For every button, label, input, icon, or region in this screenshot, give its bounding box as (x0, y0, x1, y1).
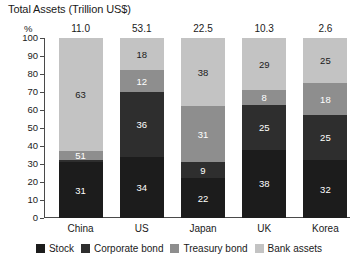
bar-segment-stock[interactable]: 31 (59, 162, 103, 218)
total-assets-value: 2.6 (303, 23, 347, 34)
y-tick-label: 80 (27, 69, 38, 79)
legend-label: Treasury bond (183, 243, 247, 254)
stacked-bar: 315163 (59, 38, 103, 218)
stacked-bar: 2293138 (181, 38, 225, 218)
total-assets-value: 10.3 (242, 23, 286, 34)
legend-item-stock[interactable]: Stock (36, 243, 74, 254)
bar-segment-treas[interactable]: 18 (303, 83, 347, 115)
bar-segment-treas[interactable]: 51 (59, 151, 103, 160)
bar-segment-corp[interactable]: 36 (120, 92, 164, 157)
y-tick-label: 20 (27, 177, 38, 187)
legend-swatch-icon (170, 244, 179, 253)
bar-segment-treas[interactable]: 12 (120, 70, 164, 92)
bar-segment-stock[interactable]: 34 (120, 157, 164, 218)
y-tick-mark (40, 128, 44, 129)
total-assets-value: 11.0 (59, 23, 103, 34)
y-tick-label: 60 (27, 105, 38, 115)
bar-column-us[interactable]: 53.134361218US (120, 38, 164, 218)
bar-segment-bank[interactable]: 29 (242, 38, 286, 90)
legend-label: Corporate bond (94, 243, 164, 254)
bar-column-uk[interactable]: 10.33825829UK (242, 38, 286, 218)
bar-segment-bank[interactable]: 18 (120, 38, 164, 70)
stacked-bar-chart: Total Assets (Trillion US$) % 1009080706… (0, 0, 358, 258)
y-tick-mark (40, 146, 44, 147)
y-tick-mark (40, 74, 44, 75)
y-tick-label: 0 (33, 213, 38, 223)
bar-column-china[interactable]: 11.0315163China (59, 38, 103, 218)
y-tick-mark (40, 218, 44, 219)
legend-label: Bank assets (268, 243, 322, 254)
y-tick-label: 100 (22, 33, 38, 43)
bar-segment-stock[interactable]: 22 (181, 178, 225, 218)
bar-segment-bank[interactable]: 63 (59, 38, 103, 151)
y-tick-mark (40, 92, 44, 93)
y-tick-mark (40, 110, 44, 111)
bar-segment-corp[interactable]: 9 (181, 162, 225, 178)
total-assets-value: 53.1 (120, 23, 164, 34)
x-tick-label: Japan (175, 223, 231, 234)
plot-area: 1009080706050403020100 11.0315163China53… (44, 38, 350, 218)
x-tick-label: UK (236, 223, 292, 234)
legend-swatch-icon (36, 244, 45, 253)
bar-column-korea[interactable]: 2.632251825Korea (303, 38, 347, 218)
bar-segment-corp[interactable]: 25 (242, 105, 286, 150)
legend-swatch-icon (81, 244, 90, 253)
legend-swatch-icon (255, 244, 264, 253)
x-tick-label: US (114, 223, 170, 234)
bar-segment-corp[interactable]: 25 (303, 115, 347, 160)
total-assets-value: 22.5 (181, 23, 225, 34)
y-tick-label: 50 (27, 123, 38, 133)
x-tick-label: China (53, 223, 109, 234)
bar-segment-bank[interactable]: 38 (181, 38, 225, 106)
y-tick-mark (40, 200, 44, 201)
stacked-bar: 3825829 (242, 38, 286, 218)
legend-item-bank[interactable]: Bank assets (255, 243, 322, 254)
x-tick-label: Korea (297, 223, 353, 234)
y-tick-label: 30 (27, 159, 38, 169)
chart-legend: StockCorporate bondTreasury bondBank ass… (0, 243, 358, 254)
y-tick-mark (40, 164, 44, 165)
chart-title: Total Assets (Trillion US$) (8, 3, 131, 15)
bar-segment-bank[interactable]: 25 (303, 38, 347, 83)
bar-segment-stock[interactable]: 32 (303, 160, 347, 218)
y-tick-mark (40, 182, 44, 183)
legend-label: Stock (49, 243, 74, 254)
legend-item-corp[interactable]: Corporate bond (81, 243, 164, 254)
y-tick-label: 40 (27, 141, 38, 151)
legend-item-treas[interactable]: Treasury bond (170, 243, 247, 254)
y-tick-mark (40, 38, 44, 39)
bar-segment-stock[interactable]: 38 (242, 150, 286, 218)
stacked-bar: 34361218 (120, 38, 164, 218)
y-tick-label: 70 (27, 87, 38, 97)
bar-segment-treas[interactable]: 8 (242, 90, 286, 104)
y-tick-label: 10 (27, 195, 38, 205)
stacked-bar: 32251825 (303, 38, 347, 218)
bar-column-japan[interactable]: 22.52293138Japan (181, 38, 225, 218)
y-tick-label: 90 (27, 51, 38, 61)
y-tick-mark (40, 56, 44, 57)
y-axis-line (44, 38, 45, 218)
bar-segment-treas[interactable]: 31 (181, 106, 225, 162)
